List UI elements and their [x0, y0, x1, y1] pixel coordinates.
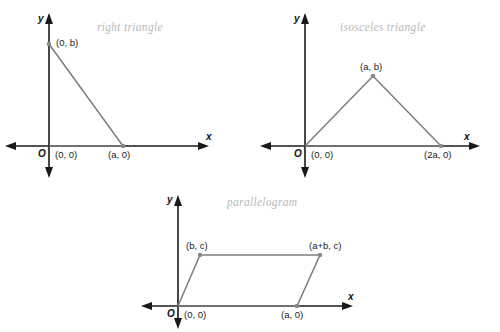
y-axis-arrow-down-icon — [301, 167, 309, 178]
axis-label-y-2: y — [294, 13, 300, 24]
coord-label-origin-3: (0, 0) — [184, 309, 206, 320]
origin-label-2: O — [294, 148, 302, 159]
coord-label-ab-c: (a+b, c) — [309, 240, 341, 251]
coord-label-a-b: (a, b) — [360, 61, 382, 72]
x-axis-arrow-left-icon — [260, 142, 271, 150]
y-axis-arrow-icon — [174, 195, 182, 206]
origin-label-3: O — [167, 308, 175, 319]
vertex-dot-a-0 — [121, 144, 126, 149]
figure-title-right-triangle: right triangle — [97, 21, 163, 33]
y-axis-arrow-down-icon — [174, 318, 182, 329]
y-axis-arrow-icon — [301, 13, 309, 24]
vertex-dot-2a-0 — [439, 144, 444, 149]
coord-label-a-0-p: (a, 0) — [281, 309, 303, 320]
y-axis-arrow-icon — [45, 13, 53, 24]
diagram-canvas: right triangle (0, b) (0, 0) (a, 0) y x … — [0, 0, 500, 332]
coord-label-0-b: (0, b) — [56, 37, 78, 48]
axis-label-x-2: x — [464, 131, 470, 142]
vertex-dot-b-c — [198, 253, 203, 258]
x-axis-arrow-icon — [198, 142, 209, 150]
x-axis-arrow-left-icon — [141, 302, 152, 310]
vertex-dot-a-0-p — [295, 304, 300, 309]
coord-label-origin-2: (0, 0) — [311, 149, 333, 160]
vertex-dot-0-b — [47, 42, 52, 47]
coord-label-2a-0: (2a, 0) — [424, 149, 451, 160]
right-triangle-shape — [49, 44, 123, 146]
isosceles-triangle-shape — [305, 76, 441, 146]
vertex-dot-ab-c — [318, 253, 323, 258]
axis-label-x-3: x — [348, 291, 354, 302]
origin-label-1: O — [38, 148, 46, 159]
x-axis-arrow-left-icon — [5, 142, 16, 150]
coord-label-b-c: (b, c) — [186, 240, 208, 251]
axis-label-y-3: y — [167, 194, 173, 205]
vertex-dot-a-b — [371, 74, 376, 79]
figure-title-isosceles-triangle: isosceles triangle — [340, 21, 426, 33]
y-axis-arrow-down-icon — [45, 167, 53, 178]
parallelogram-shape — [178, 255, 320, 306]
axis-label-x-1: x — [206, 131, 212, 142]
x-axis-arrow-icon — [342, 302, 353, 310]
axis-label-y-1: y — [38, 13, 44, 24]
x-axis-arrow-icon — [469, 142, 480, 150]
coord-label-origin-1: (0, 0) — [55, 149, 77, 160]
figure-title-parallelogram: parallelogram — [227, 196, 297, 208]
coord-label-a-0: (a, 0) — [108, 149, 130, 160]
